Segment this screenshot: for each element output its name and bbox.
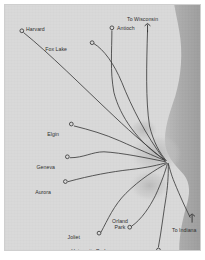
station-label-to-indiana: To Indiana [172, 227, 196, 233]
station-label-university-park: University Park [71, 248, 107, 251]
station-label-orland-park: Orland Park [109, 218, 131, 230]
station-marker-university-park[interactable] [157, 248, 161, 250]
system-map-frame: HarvardFox LakeAntiochTo WisconsinElginG… [4, 4, 201, 251]
station-marker-joliet[interactable] [97, 231, 101, 235]
station-marker-antioch[interactable] [110, 26, 114, 30]
station-marker-geneva[interactable] [65, 155, 69, 159]
station-label-to-wisconsin: To Wisconsin [127, 16, 158, 22]
station-label-aurora: Aurora [35, 189, 51, 195]
station-marker-fox-lake[interactable] [90, 41, 94, 45]
station-marker-elgin[interactable] [69, 122, 73, 126]
station-marker-aurora[interactable] [64, 180, 68, 184]
station-label-harvard: Harvard [26, 26, 45, 32]
station-label-joliet: Joliet [68, 234, 80, 240]
station-marker-harvard[interactable] [20, 29, 24, 33]
station-label-fox-lake: Fox Lake [45, 46, 67, 52]
station-label-geneva: Geneva [37, 164, 55, 170]
system-map-graphic [5, 5, 200, 250]
station-label-elgin: Elgin [47, 131, 59, 137]
station-label-antioch: Antioch [117, 25, 135, 31]
